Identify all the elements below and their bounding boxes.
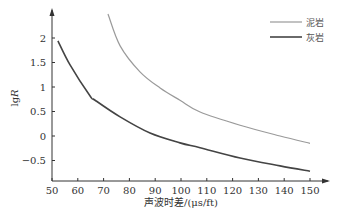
- y-tick-label: −0.5: [22, 155, 46, 166]
- y-axis-title: lgR: [9, 89, 20, 107]
- x-tick-label: 110: [197, 185, 216, 196]
- x-tick-label: 80: [123, 185, 136, 196]
- series-line-mudstone: [108, 14, 310, 143]
- x-tick-label: 90: [149, 185, 162, 196]
- y-tick-label: 1: [40, 82, 46, 93]
- x-axis-title: 声波时差/(μs/ft): [144, 196, 218, 208]
- x-tick-label: 60: [71, 185, 84, 196]
- x-tick-label: 130: [249, 185, 268, 196]
- y-tick-label: 0.5: [30, 106, 46, 117]
- series-line-limestone: [58, 41, 310, 171]
- y-axis: −0.500.511.52: [22, 8, 55, 181]
- x-tick-label: 140: [275, 185, 294, 196]
- x-tick-label: 120: [223, 185, 242, 196]
- x-tick-label: 100: [171, 185, 190, 196]
- x-tick-label: 150: [300, 185, 319, 196]
- y-tick-label: 1.5: [30, 57, 46, 68]
- legend-label: 泥岩: [306, 17, 324, 28]
- y-tick-label: 2: [40, 33, 46, 44]
- chart: −0.500.511.52 50607080901001101201301401…: [0, 0, 360, 211]
- x-axis: 5060708090100110120130140150: [46, 178, 330, 196]
- y-tick-label: 0: [40, 131, 46, 142]
- legend-label: 灰岩: [306, 32, 324, 43]
- legend: 泥岩灰岩: [270, 17, 324, 43]
- y-axis-arrow-icon: [50, 8, 55, 16]
- x-tick-label: 70: [97, 185, 110, 196]
- x-axis-arrow-icon: [322, 179, 330, 184]
- x-tick-label: 50: [46, 185, 59, 196]
